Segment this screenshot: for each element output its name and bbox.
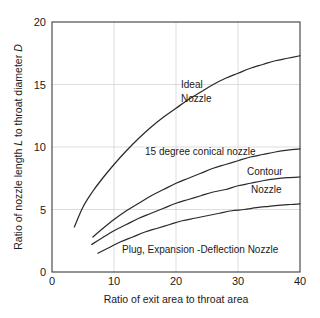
- x-tick-0: 0: [49, 275, 55, 287]
- annotation-ideal-line2: Nozzle: [181, 93, 212, 104]
- x-axis-tick-labels: 0 10 20 30 40: [49, 275, 306, 287]
- y-axis-tick-labels: 0 5 10 15 20: [34, 16, 46, 278]
- y-axis-title-seg2: to throat diameter: [12, 52, 24, 140]
- annotation-nozzle: Nozzle: [251, 184, 282, 195]
- annotation-contour: Contour: [247, 166, 283, 177]
- y-tick-0: 0: [40, 266, 46, 278]
- annotation-ideal-line1: Ideal: [181, 79, 203, 90]
- annotation-plug-expansion-deflection-nozzle: Plug, Expansion -Deflection Nozzle: [122, 244, 279, 255]
- x-tick-40: 40: [294, 275, 306, 287]
- annotation-15-degree-conical-nozzle: 15 degree conical nozzle: [145, 146, 256, 157]
- y-tick-20: 20: [34, 16, 46, 28]
- x-tick-30: 30: [232, 275, 244, 287]
- y-tick-5: 5: [40, 204, 46, 216]
- y-axis-title-seg1: Ratio of nozzle length: [12, 146, 24, 250]
- chart-figure: 0 10 20 30 40 0 5 10 15 20 Ratio of exit…: [0, 0, 320, 318]
- y-tick-10: 10: [34, 141, 46, 153]
- y-axis-title: Ratio of nozzle length L to throat diame…: [12, 44, 24, 250]
- y-tick-15: 15: [34, 79, 46, 91]
- x-tick-20: 20: [170, 275, 182, 287]
- x-tick-10: 10: [108, 275, 120, 287]
- x-axis-title: Ratio of exit area to throat area: [104, 293, 249, 305]
- nozzle-length-chart: 0 10 20 30 40 0 5 10 15 20 Ratio of exit…: [0, 0, 320, 318]
- y-axis-title-italic-D: D: [12, 44, 24, 52]
